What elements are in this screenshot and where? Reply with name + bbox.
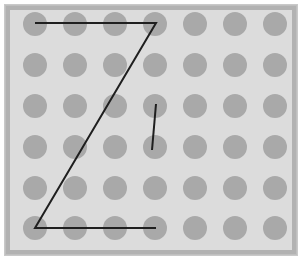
grid-dot	[143, 135, 167, 159]
grid-dot	[223, 12, 247, 36]
grid-dot	[63, 216, 87, 240]
dot-grid-panel	[10, 10, 292, 250]
grid-dot	[23, 176, 47, 200]
grid-dot	[63, 176, 87, 200]
grid-dot	[143, 94, 167, 118]
grid-dot	[223, 135, 247, 159]
grid-dot	[223, 94, 247, 118]
grid-dot	[63, 12, 87, 36]
grid-dot	[183, 12, 207, 36]
grid-dot	[263, 216, 287, 240]
grid-dot	[263, 176, 287, 200]
grid-dot	[183, 135, 207, 159]
grid-dot	[263, 135, 287, 159]
grid-dot	[183, 94, 207, 118]
grid-dot	[23, 53, 47, 77]
figure-canvas	[0, 0, 302, 260]
grid-dot	[263, 12, 287, 36]
grid-dot	[63, 94, 87, 118]
grid-dot	[23, 135, 47, 159]
grid-dot	[103, 176, 127, 200]
grid-dot	[103, 94, 127, 118]
grid-dot	[23, 94, 47, 118]
grid-dot	[143, 176, 167, 200]
grid-dot	[143, 53, 167, 77]
grid-dot	[223, 216, 247, 240]
grid-dot	[223, 176, 247, 200]
grid-dot	[103, 53, 127, 77]
grid-dot	[143, 216, 167, 240]
grid-dot	[183, 53, 207, 77]
grid-dot	[183, 176, 207, 200]
grid-dot	[63, 53, 87, 77]
grid-dot	[63, 135, 87, 159]
grid-dot	[103, 216, 127, 240]
grid-dot	[103, 135, 127, 159]
grid-dot	[23, 12, 47, 36]
grid-dot	[143, 12, 167, 36]
grid-dot	[263, 94, 287, 118]
grid-dot	[103, 12, 127, 36]
grid-dot	[23, 216, 47, 240]
grid-dot	[223, 53, 247, 77]
grid-dot	[263, 53, 287, 77]
grid-dot	[183, 216, 207, 240]
